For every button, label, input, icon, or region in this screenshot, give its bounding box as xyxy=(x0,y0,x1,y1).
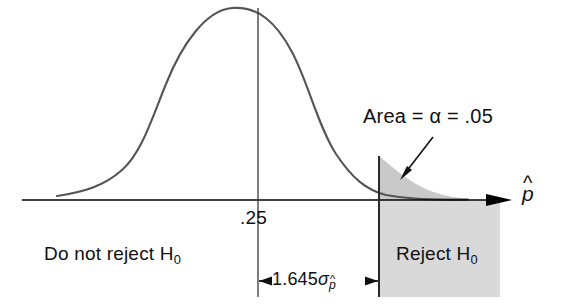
normal-curve-figure: Area = α = .05 .25 ^ p Do not reject H0 … xyxy=(0,0,571,307)
sigma-symbol: σ xyxy=(318,269,329,289)
do-not-reject-region-label: Do not reject H0 xyxy=(44,244,181,267)
sigma-subscript-accent: ^ xyxy=(330,273,336,285)
do-not-reject-subscript: 0 xyxy=(174,252,181,267)
critical-distance-label: 1.645σ ^ p xyxy=(272,270,336,291)
x-axis-label: ^ p xyxy=(522,183,534,204)
measure-arrowhead-left xyxy=(259,277,272,286)
measure-arrowhead-right xyxy=(365,277,378,286)
rejection-tail-shading xyxy=(379,156,468,200)
reject-region-label: Reject H0 xyxy=(396,244,478,267)
p-hat-accent: ^ xyxy=(523,174,533,194)
sigma-subscript-p-hat: ^ p xyxy=(329,279,336,291)
mean-value-label: .25 xyxy=(240,208,267,227)
critical-distance-value: 1.645 xyxy=(272,269,318,289)
reject-text: Reject H xyxy=(396,243,470,264)
reject-subscript: 0 xyxy=(470,252,477,267)
do-not-reject-text: Do not reject H xyxy=(44,243,174,264)
area-annotation-label: Area = α = .05 xyxy=(363,106,493,126)
area-annotation-leader-line xyxy=(406,137,433,172)
